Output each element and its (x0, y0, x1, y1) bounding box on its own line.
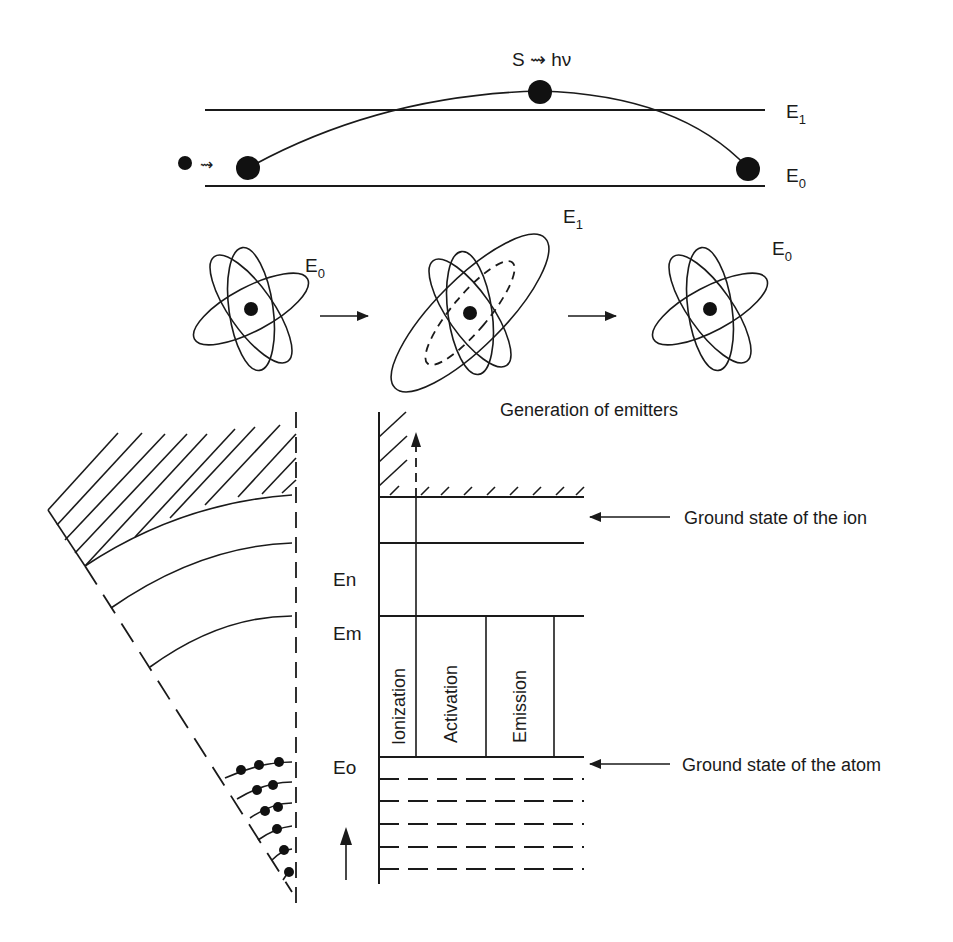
atom-start-icon (236, 156, 260, 180)
atoms-panel: E0 E1 E0 Generation of emitters (184, 206, 792, 420)
energy-level-diagram: En Em Eo Ionization Activation Emission … (333, 412, 881, 884)
transition-trajectory (248, 91, 748, 168)
atom-excited-icon (528, 80, 552, 104)
atom-1-label: E (305, 255, 318, 276)
top-transition-panel: ⇝ S ⇝ hν E1 E0 (178, 49, 806, 191)
level-en-label: En (333, 569, 356, 590)
atom-excited-icon (371, 214, 569, 412)
level-e0-sub: 0 (799, 176, 806, 191)
atom-ground-1-icon (184, 244, 318, 374)
level-e0-label: E (786, 165, 799, 186)
svg-text:E1: E1 (563, 206, 583, 232)
shell-fan-diagram (48, 412, 296, 905)
atom-end-icon (736, 157, 760, 181)
ion-ground-label: Ground state of the ion (684, 508, 867, 528)
level-e1-label: E (786, 101, 799, 122)
generation-caption: Generation of emitters (500, 400, 678, 420)
atom-2-label: E (563, 206, 576, 227)
column-activation-label: Activation (441, 665, 461, 743)
svg-text:E0: E0 (786, 165, 806, 191)
emission-diagram: ⇝ S ⇝ hν E1 E0 E0 E1 (0, 0, 953, 942)
column-emission-label: Emission (510, 670, 530, 743)
incident-particle-icon (178, 156, 192, 170)
svg-text:E0: E0 (305, 255, 325, 281)
emission-label: S ⇝ hν (512, 49, 571, 70)
atom-3-label: E (772, 238, 785, 259)
level-eo-label: Eo (333, 757, 356, 778)
incoming-arrow-glyph: ⇝ (200, 156, 213, 173)
level-e1-sub: 1 (799, 112, 806, 127)
column-ionization-label: Ionization (389, 668, 409, 745)
svg-text:E0: E0 (772, 238, 792, 264)
svg-text:E1: E1 (786, 101, 806, 127)
atom-ground-2-icon (643, 244, 777, 374)
level-em-label: Em (333, 623, 362, 644)
energy-up-arrow-icon (340, 827, 352, 845)
atom-ground-label: Ground state of the atom (682, 755, 881, 775)
